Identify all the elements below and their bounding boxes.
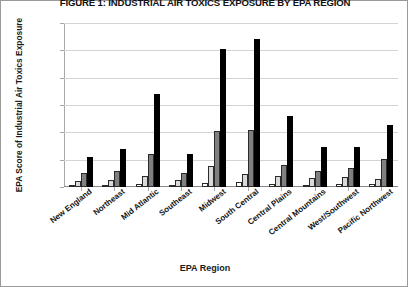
x-tick-label: New England bbox=[48, 187, 93, 225]
plot-area: 050001000015000200002500030000 bbox=[64, 23, 398, 187]
bar-group bbox=[264, 23, 297, 187]
bar-group bbox=[97, 23, 130, 187]
bar-group bbox=[131, 23, 164, 187]
x-tick-label: Southeast bbox=[158, 187, 194, 218]
bar bbox=[321, 147, 327, 187]
bar bbox=[254, 39, 260, 187]
x-axis-title: EPA Region bbox=[1, 263, 408, 273]
bar-group bbox=[64, 23, 97, 187]
bar bbox=[354, 147, 360, 187]
bar-group bbox=[298, 23, 331, 187]
bar bbox=[220, 49, 226, 187]
x-tick-label: Central Mountains bbox=[267, 187, 328, 237]
bar-groups bbox=[64, 23, 398, 187]
bar bbox=[87, 157, 93, 187]
chart-figure: FIGURE 1: INDUSTRIAL AIR TOXICS EXPOSURE… bbox=[0, 0, 408, 287]
bar-group bbox=[331, 23, 364, 187]
x-tick-labels: New EnglandNortheastMid AtlanticSoutheas… bbox=[64, 187, 398, 257]
x-tick-label: Midwest bbox=[197, 187, 227, 214]
bar bbox=[154, 94, 160, 187]
bar-group bbox=[365, 23, 398, 187]
y-axis-title: EPA Score of Industrial Air Toxics Expos… bbox=[12, 10, 26, 200]
bar bbox=[187, 154, 193, 187]
bar bbox=[120, 149, 126, 187]
chart-title: FIGURE 1: INDUSTRIAL AIR TOXICS EXPOSURE… bbox=[1, 0, 408, 9]
bar bbox=[287, 116, 293, 187]
bar bbox=[387, 125, 393, 187]
bar-group bbox=[231, 23, 264, 187]
bar-group bbox=[164, 23, 197, 187]
bar-group bbox=[198, 23, 231, 187]
